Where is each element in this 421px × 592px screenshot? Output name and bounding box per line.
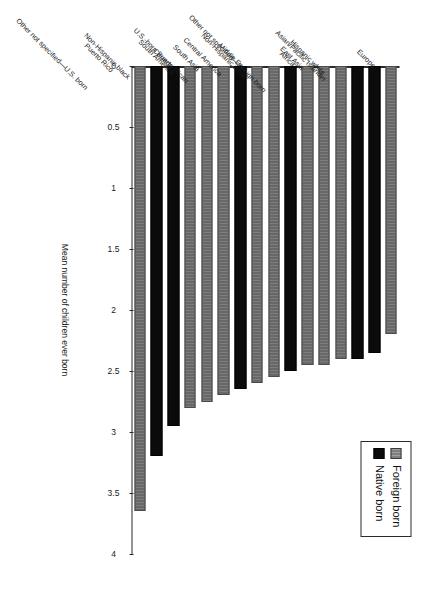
legend-swatch-foreign-born <box>390 448 401 459</box>
legend: Foreign born Native born <box>360 441 411 537</box>
axis-tick-label: 4 <box>109 542 119 566</box>
axis-tick <box>129 188 133 189</box>
bar-row <box>251 66 263 554</box>
bar-row <box>318 66 330 554</box>
axis-tick <box>129 432 133 433</box>
axis-tick <box>129 66 133 67</box>
bar[interactable] <box>335 66 347 359</box>
category-label: Non-Hispanic black <box>82 31 132 81</box>
category-label: Other not specified—U.S. born <box>14 16 90 92</box>
axis-tick <box>129 493 133 494</box>
bar-row <box>268 66 280 554</box>
bar[interactable] <box>134 66 146 511</box>
bar-row <box>284 66 296 554</box>
bar[interactable] <box>150 66 162 456</box>
axis-tick-label: 0.5 <box>109 115 119 139</box>
axis-tick <box>129 310 133 311</box>
legend-item-native-born[interactable]: Native born <box>373 448 384 530</box>
bar[interactable] <box>234 66 246 389</box>
axis-tick <box>129 554 133 555</box>
bar[interactable] <box>251 66 263 383</box>
bar-row <box>134 66 146 554</box>
figure-stage: 00.511.522.533.54 Puerto RicoOther not s… <box>0 0 421 592</box>
bar[interactable] <box>284 66 296 371</box>
bar-row <box>217 66 229 554</box>
axis-tick-label: 2.5 <box>109 359 119 383</box>
bar-row <box>335 66 347 554</box>
bar[interactable] <box>217 66 229 395</box>
axis-tick-label: 3.5 <box>109 481 119 505</box>
axis-tick <box>129 127 133 128</box>
axis-tick-label: 1.5 <box>109 237 119 261</box>
axis-tick-label: 3 <box>109 420 119 444</box>
bar-chart-figure: 00.511.522.533.54 Puerto RicoOther not s… <box>0 0 421 592</box>
bar-row <box>201 66 213 554</box>
value-axis-title: Mean number of children ever born <box>59 66 69 554</box>
legend-label-native-born: Native born <box>373 465 384 521</box>
axis-tick-label: 1 <box>109 176 119 200</box>
bar-row <box>167 66 179 554</box>
bar[interactable] <box>301 66 313 365</box>
axis-tick <box>129 249 133 250</box>
bar-row <box>150 66 162 554</box>
legend-swatch-native-born <box>373 448 384 459</box>
axis-tick-label: 2 <box>109 298 119 322</box>
bar[interactable] <box>184 66 196 408</box>
bar-row <box>184 66 196 554</box>
bar[interactable] <box>385 66 397 334</box>
legend-item-foreign-born[interactable]: Foreign born <box>390 448 401 530</box>
bar-row <box>234 66 246 554</box>
bar[interactable] <box>368 66 380 353</box>
legend-label-foreign-born: Foreign born <box>390 465 401 527</box>
bar-row <box>301 66 313 554</box>
bar[interactable] <box>318 66 330 365</box>
plot-area: 00.511.522.533.54 Puerto RicoOther not s… <box>131 66 399 554</box>
bar[interactable] <box>167 66 179 426</box>
bar[interactable] <box>351 66 363 359</box>
bar[interactable] <box>268 66 280 377</box>
bar[interactable] <box>201 66 213 402</box>
axis-tick <box>129 371 133 372</box>
